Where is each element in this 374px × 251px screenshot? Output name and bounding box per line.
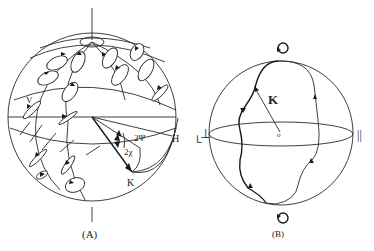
label-k-b: K [268, 92, 279, 107]
pol-ellipse [63, 175, 87, 195]
equator-front [10, 128, 176, 144]
label-perp: ⊥ [200, 126, 211, 141]
linear-pol-mark [86, 146, 100, 155]
label-v: V [26, 95, 33, 105]
label-parallel: || [357, 128, 362, 142]
pol-ellipse [44, 53, 69, 73]
poincare-figure: V H 2Ψ 2χ K └ (A) K o ⊥ || (B) [0, 0, 374, 251]
panel-a: V H 2Ψ 2χ K └ (A) [8, 8, 202, 241]
k-vector-b-arrowhead [254, 86, 259, 92]
caption-b: (B) [272, 229, 284, 239]
traj-arrow [248, 183, 253, 188]
pol-ellipse [150, 83, 170, 103]
label-2chi: 2χ [124, 147, 133, 157]
traj-arrow [313, 94, 317, 99]
circular-pol-top-icon [278, 43, 288, 53]
pol-ellipse [59, 80, 81, 105]
sphere-outline-b [209, 61, 353, 205]
trajectory-left [239, 61, 278, 203]
linear-pol-mark [42, 133, 56, 150]
label-h: H [172, 133, 179, 144]
chi-arc [132, 148, 140, 172]
caption-a: (A) [82, 228, 98, 241]
pol-ellipse [59, 154, 77, 175]
label-k: K [127, 177, 135, 188]
trajectory-right [266, 61, 319, 204]
chi-arrow-down [114, 141, 120, 148]
equator-ellipse-b [209, 122, 353, 146]
circular-pol-bottom-icon [278, 213, 288, 223]
panel-b: K o ⊥ || (B) [200, 43, 362, 239]
label-origin: o [277, 131, 281, 139]
label-2psi: 2Ψ [134, 133, 146, 143]
psi-arc-marker [123, 133, 125, 148]
pol-ellipse [127, 41, 146, 63]
